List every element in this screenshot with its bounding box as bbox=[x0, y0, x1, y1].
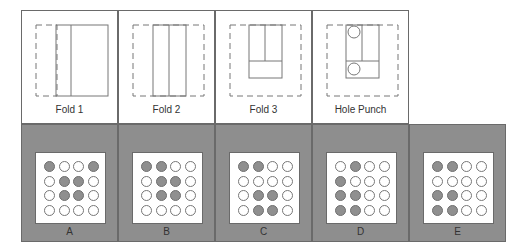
hole-grid bbox=[132, 152, 203, 224]
empty-hole-icon bbox=[364, 176, 375, 187]
punched-hole-icon bbox=[59, 176, 70, 187]
punched-hole-icon bbox=[432, 205, 443, 216]
punched-hole-icon bbox=[141, 161, 152, 172]
step-label: Hole Punch bbox=[313, 104, 408, 115]
empty-hole-icon bbox=[379, 205, 390, 216]
punched-hole-icon bbox=[335, 205, 346, 216]
punched-hole-icon bbox=[267, 205, 278, 216]
empty-hole-icon bbox=[282, 161, 293, 172]
empty-hole-icon bbox=[170, 161, 181, 172]
empty-hole-icon bbox=[185, 205, 196, 216]
answer-option-c[interactable]: C bbox=[215, 124, 312, 242]
empty-hole-icon bbox=[185, 176, 196, 187]
empty-hole-icon bbox=[88, 205, 99, 216]
empty-hole-icon bbox=[461, 161, 472, 172]
punched-hole-icon bbox=[447, 205, 458, 216]
punched-hole-icon bbox=[350, 205, 361, 216]
empty-hole-icon bbox=[73, 161, 84, 172]
answer-option-a[interactable]: A bbox=[21, 124, 118, 242]
fold-1-diagram-icon bbox=[22, 11, 119, 111]
empty-hole-icon bbox=[476, 161, 487, 172]
empty-hole-icon bbox=[461, 190, 472, 201]
empty-hole-icon bbox=[44, 176, 55, 187]
answer-option-e[interactable]: E bbox=[409, 124, 506, 242]
empty-hole-icon bbox=[141, 176, 152, 187]
empty-hole-icon bbox=[59, 161, 70, 172]
empty-hole-icon bbox=[44, 205, 55, 216]
empty-hole-icon bbox=[476, 176, 487, 187]
empty-hole-icon bbox=[141, 205, 152, 216]
empty-hole-icon bbox=[335, 161, 346, 172]
empty-hole-icon bbox=[59, 205, 70, 216]
empty-hole-icon bbox=[282, 190, 293, 201]
step-fold-2: Fold 2 bbox=[118, 10, 215, 124]
answer-option-b[interactable]: B bbox=[118, 124, 215, 242]
empty-hole-icon bbox=[364, 205, 375, 216]
punched-hole-icon bbox=[170, 190, 181, 201]
step-fold-1: Fold 1 bbox=[21, 10, 118, 124]
empty-hole-icon bbox=[253, 176, 264, 187]
punched-hole-icon bbox=[267, 190, 278, 201]
empty-hole-icon bbox=[379, 161, 390, 172]
empty-hole-icon bbox=[282, 176, 293, 187]
empty-hole-icon bbox=[476, 205, 487, 216]
empty-hole-icon bbox=[461, 205, 472, 216]
empty-hole-icon bbox=[282, 205, 293, 216]
empty-hole-icon bbox=[432, 176, 443, 187]
empty-hole-icon bbox=[73, 205, 84, 216]
punched-hole-icon bbox=[88, 161, 99, 172]
punched-hole-icon bbox=[156, 176, 167, 187]
punched-hole-icon bbox=[253, 205, 264, 216]
hole-grid bbox=[35, 152, 106, 224]
punched-hole-icon bbox=[447, 190, 458, 201]
hole-grid bbox=[423, 152, 494, 224]
punched-hole-icon bbox=[156, 161, 167, 172]
punched-hole-icon bbox=[447, 161, 458, 172]
step-hole-punch: Hole Punch bbox=[312, 10, 409, 124]
punched-hole-icon bbox=[253, 161, 264, 172]
empty-hole-icon bbox=[447, 176, 458, 187]
option-label: B bbox=[119, 226, 214, 237]
punched-hole-icon bbox=[350, 190, 361, 201]
empty-hole-icon bbox=[185, 190, 196, 201]
empty-hole-icon bbox=[88, 176, 99, 187]
option-label: A bbox=[22, 226, 117, 237]
empty-hole-icon bbox=[364, 190, 375, 201]
empty-hole-icon bbox=[141, 190, 152, 201]
empty-hole-icon bbox=[364, 161, 375, 172]
empty-hole-icon bbox=[461, 176, 472, 187]
punched-hole-icon bbox=[73, 176, 84, 187]
fold-3-diagram-icon bbox=[216, 11, 313, 111]
option-label: E bbox=[410, 226, 505, 237]
punched-hole-icon bbox=[350, 161, 361, 172]
empty-hole-icon bbox=[238, 205, 249, 216]
answer-option-d[interactable]: D bbox=[312, 124, 409, 242]
step-fold-3: Fold 3 bbox=[215, 10, 312, 124]
punched-hole-icon bbox=[59, 190, 70, 201]
punched-hole-icon bbox=[335, 176, 346, 187]
empty-hole-icon bbox=[238, 176, 249, 187]
empty-hole-icon bbox=[170, 205, 181, 216]
step-label: Fold 2 bbox=[119, 104, 214, 115]
punched-hole-icon bbox=[238, 161, 249, 172]
punched-hole-icon bbox=[170, 176, 181, 187]
punched-hole-icon bbox=[335, 190, 346, 201]
punched-hole-icon bbox=[156, 190, 167, 201]
hole-grid bbox=[326, 152, 397, 224]
punched-hole-icon bbox=[73, 190, 84, 201]
step-label: Fold 1 bbox=[22, 104, 117, 115]
empty-hole-icon bbox=[379, 190, 390, 201]
step-label: Fold 3 bbox=[216, 104, 311, 115]
punched-hole-icon bbox=[253, 190, 264, 201]
hole-grid bbox=[229, 152, 300, 224]
punched-hole-icon bbox=[432, 161, 443, 172]
empty-hole-icon bbox=[476, 190, 487, 201]
empty-hole-icon bbox=[185, 161, 196, 172]
empty-hole-icon bbox=[44, 190, 55, 201]
empty-hole-icon bbox=[156, 205, 167, 216]
hole-punch-diagram-icon bbox=[313, 11, 410, 111]
punched-hole-icon bbox=[432, 190, 443, 201]
empty-hole-icon bbox=[267, 176, 278, 187]
empty-hole-icon bbox=[88, 190, 99, 201]
option-label: C bbox=[216, 226, 311, 237]
